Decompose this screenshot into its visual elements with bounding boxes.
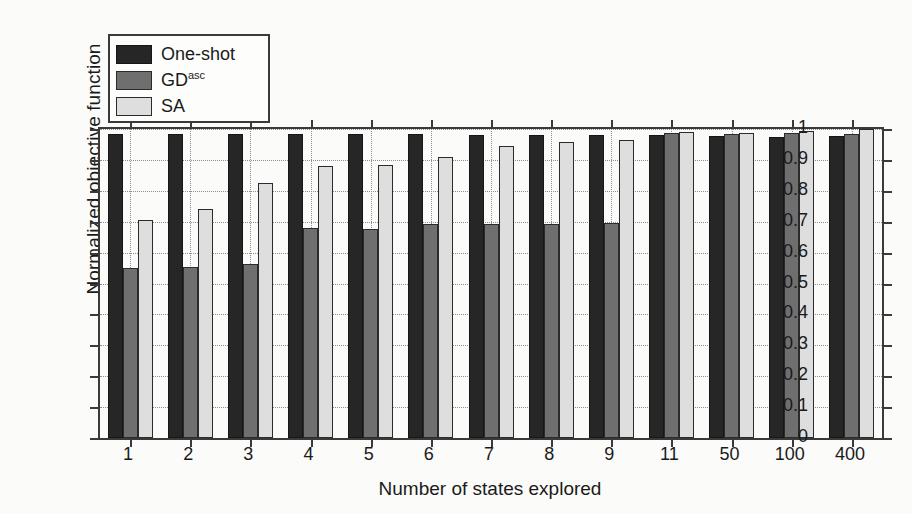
bar-group [226, 129, 274, 438]
bar-one-shot-5 [348, 134, 363, 438]
x-axis-tick [611, 120, 613, 129]
y-axis-tick [882, 222, 892, 224]
legend-label-one-shot: One-shot [161, 44, 235, 65]
legend-item: GDasc [116, 67, 262, 93]
y-axis-tick [882, 314, 892, 316]
y-axis-tick-label: 0.8 [748, 178, 808, 199]
bar-gd-50 [724, 134, 739, 438]
y-axis-tick [90, 284, 100, 286]
x-axis-tick [371, 120, 373, 129]
bar-group [106, 129, 154, 438]
bar-group [647, 129, 695, 438]
x-axis-tick-label: 400 [820, 444, 880, 465]
bar-one-shot-50 [709, 136, 724, 438]
y-axis-tick [90, 253, 100, 255]
y-axis-tick [90, 407, 100, 409]
legend-swatch-gd-asc [116, 71, 152, 90]
x-axis-tick-label: 7 [459, 444, 519, 465]
legend-label-gd-asc: GDasc [161, 69, 205, 91]
bar-one-shot-11 [649, 135, 664, 438]
bar-gd-400 [844, 134, 859, 438]
x-axis-tick-label: 6 [399, 444, 459, 465]
bar-gd-6 [423, 224, 438, 438]
bar-gd-9 [604, 223, 619, 438]
y-axis-tick [90, 314, 100, 316]
y-axis-tick-label: 0.2 [748, 364, 808, 385]
bar-one-shot-9 [589, 135, 604, 438]
x-axis-tick-label: 50 [700, 444, 760, 465]
y-axis-tick [882, 376, 892, 378]
x-axis-title: Number of states explored [98, 478, 882, 500]
bar-group [587, 129, 635, 438]
legend-label-sa: SA [161, 96, 185, 117]
y-axis-tick [90, 129, 100, 131]
y-axis-tick [882, 284, 892, 286]
y-axis-tick [90, 222, 100, 224]
y-axis-tick-label: 0.3 [748, 333, 808, 354]
bar-gd-5 [363, 229, 378, 439]
y-axis-tick-label: 0.9 [748, 147, 808, 168]
bar-gd-11 [664, 133, 679, 438]
legend-label-gd-sup: asc [188, 69, 205, 81]
y-axis-tick-label: 0.1 [748, 395, 808, 416]
legend-label-gd-base: GD [161, 70, 188, 90]
bar-sa-8 [559, 142, 574, 438]
y-axis-tick-label: 0.7 [748, 209, 808, 230]
y-axis-tick [882, 129, 892, 131]
bar-one-shot-400 [829, 136, 844, 438]
y-axis-tick [90, 160, 100, 162]
bar-gd-7 [484, 224, 499, 438]
bar-sa-1 [138, 220, 153, 438]
x-axis-tick [732, 120, 734, 129]
bar-one-shot-2 [168, 134, 183, 438]
x-axis-tick-label: 4 [279, 444, 339, 465]
y-axis-tick [90, 438, 100, 440]
y-axis-tick [90, 345, 100, 347]
x-axis-tick [551, 120, 553, 129]
legend-item: One-shot [116, 41, 262, 67]
bar-sa-2 [198, 209, 213, 438]
y-axis-tick-label: 1 [748, 117, 808, 138]
y-axis-tick [882, 345, 892, 347]
bar-gd-1 [123, 268, 138, 438]
bar-sa-7 [499, 146, 514, 438]
bar-one-shot-6 [408, 134, 423, 438]
bar-one-shot-3 [228, 134, 243, 438]
x-axis-tick-label: 3 [218, 444, 278, 465]
y-axis-tick [90, 191, 100, 193]
x-axis-tick [671, 120, 673, 129]
bar-sa-5 [378, 165, 393, 438]
legend-swatch-one-shot [116, 45, 152, 64]
x-axis-tick-label: 11 [639, 444, 699, 465]
bar-sa-6 [438, 157, 453, 438]
x-axis-tick-label: 100 [760, 444, 820, 465]
bar-group [166, 129, 214, 438]
bar-sa-9 [619, 140, 634, 438]
bar-group [347, 129, 395, 438]
bar-one-shot-4 [288, 134, 303, 438]
y-axis-tick [882, 160, 892, 162]
bar-sa-4 [318, 166, 333, 438]
bar-gd-4 [303, 228, 318, 438]
bar-group [828, 129, 876, 438]
legend-swatch-sa [116, 97, 152, 116]
y-axis-tick-label: 0.4 [748, 302, 808, 323]
y-axis-tick [882, 407, 892, 409]
bar-sa-11 [679, 132, 694, 438]
bar-one-shot-8 [529, 135, 544, 438]
x-axis-tick [311, 120, 313, 129]
legend-item: SA [116, 93, 262, 119]
x-axis-tick-label: 2 [158, 444, 218, 465]
bar-sa-400 [859, 129, 874, 438]
bar-sa-3 [258, 183, 273, 438]
chart-figure: Normalized objective function Number of … [0, 0, 912, 514]
x-axis-tick-label: 9 [579, 444, 639, 465]
x-axis-tick-label: 5 [339, 444, 399, 465]
bar-one-shot-1 [108, 134, 123, 438]
bar-group [287, 129, 335, 438]
x-axis-tick [852, 120, 854, 129]
x-axis-tick-label: 8 [519, 444, 579, 465]
x-axis-tick-label: 1 [98, 444, 158, 465]
y-axis-tick [882, 191, 892, 193]
y-axis-tick-label: 0.5 [748, 271, 808, 292]
